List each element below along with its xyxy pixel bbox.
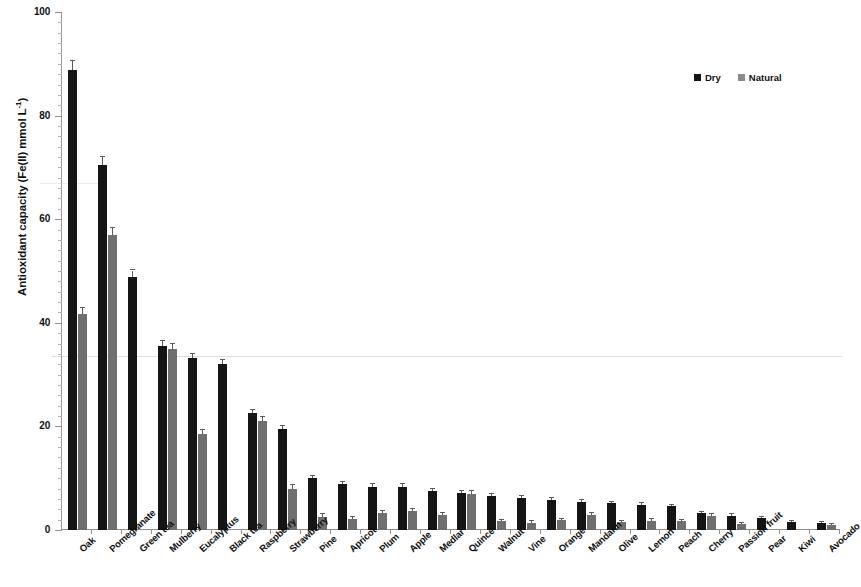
bar-natural [527,523,536,530]
bar-group [697,12,716,530]
error-bar [551,498,552,500]
bar-group [487,12,506,530]
bar-group [368,12,387,530]
error-bar-cap [519,495,524,496]
y-minor-tick [58,395,62,396]
error-bar [501,520,502,522]
error-bar [342,482,343,485]
bar-group [188,12,207,530]
plot-area: 020406080100 OakPomegranateGreen teaMulb… [62,12,840,530]
error-bar-cap [559,518,564,519]
y-tick-label-80: 80 [10,110,50,121]
x-label-pine: Pine [317,533,339,554]
y-minor-tick [58,230,62,231]
y-minor-tick [58,167,62,168]
error-bar [741,523,742,524]
y-minor-tick [58,302,62,303]
x-label-apple: Apple [407,529,433,554]
bar-group [68,12,87,530]
error-bar [352,517,353,519]
bar-group [787,12,806,530]
error-bar [581,500,582,502]
error-bar-cap [619,520,624,521]
error-bar [162,341,163,346]
error-bar-cap [669,504,674,505]
error-bar [372,484,373,487]
error-bar-cap [789,520,794,521]
bar-dry [457,493,466,530]
error-bar-cap [220,359,225,360]
bar-dry [338,484,347,530]
error-bar-cap [639,502,644,503]
y-tick-label-40: 40 [10,317,50,328]
x-label-plum: Plum [377,531,401,554]
bar-dry [248,413,257,530]
y-minor-tick [58,354,62,355]
bar-natural [108,235,117,530]
error-bar [312,476,313,479]
bar-group [517,12,536,530]
bar-natural [378,513,387,530]
y-minor-tick [58,261,62,262]
error-bar [112,228,113,235]
y-axis-title-tail: ) [16,98,28,102]
bar-dry [398,487,407,531]
bar-group [338,12,357,530]
bar-group [278,12,297,530]
bar-group [577,12,596,530]
error-bar-cap [649,518,654,519]
y-minor-tick [58,292,62,293]
error-bar [192,354,193,358]
error-bar [262,417,263,421]
bar-natural [587,515,596,530]
y-tick-20 [55,426,62,427]
error-bar-cap [709,513,714,514]
y-minor-tick [58,375,62,376]
error-bar [202,430,203,435]
bar-group [98,12,117,530]
error-bar [72,61,73,70]
error-bar-cap [430,488,435,489]
error-bar [402,484,403,487]
y-tick-60 [55,219,62,220]
bar-group [817,12,836,530]
error-bar [282,426,283,429]
y-minor-tick [58,53,62,54]
y-minor-tick [58,198,62,199]
error-bar [521,496,522,498]
bar-dry [128,277,137,530]
error-bar [651,519,652,521]
error-bar-cap [499,519,504,520]
y-axis-title-exponent: -1 [14,102,23,109]
y-minor-tick [58,385,62,386]
error-bar-cap [170,343,175,344]
bar-natural [497,521,506,530]
y-minor-tick [58,136,62,137]
bar-group [757,12,776,530]
y-minor-tick [58,250,62,251]
y-minor-tick [58,281,62,282]
error-bar-cap [200,429,205,430]
error-bar [292,485,293,488]
x-label-vine: Vine [526,533,548,554]
error-bar-cap [100,156,105,157]
y-minor-tick [58,312,62,313]
error-bar [711,514,712,516]
bar-dry [368,487,377,531]
x-label-lemon: Lemon [646,526,676,554]
error-bar-cap [440,512,445,513]
error-bar [791,521,792,522]
error-bar-cap [290,484,295,485]
error-bar-cap [679,519,684,520]
y-minor-tick [58,447,62,448]
bar-natural [438,515,447,530]
bar-group [457,12,476,530]
error-bar-cap [190,353,195,354]
y-minor-tick [58,209,62,210]
bar-natural [78,314,87,530]
bar-natural [677,521,686,530]
bar-dry [787,522,796,530]
error-bar [681,520,682,522]
y-minor-tick [58,188,62,189]
x-label-peach: Peach [676,528,703,554]
